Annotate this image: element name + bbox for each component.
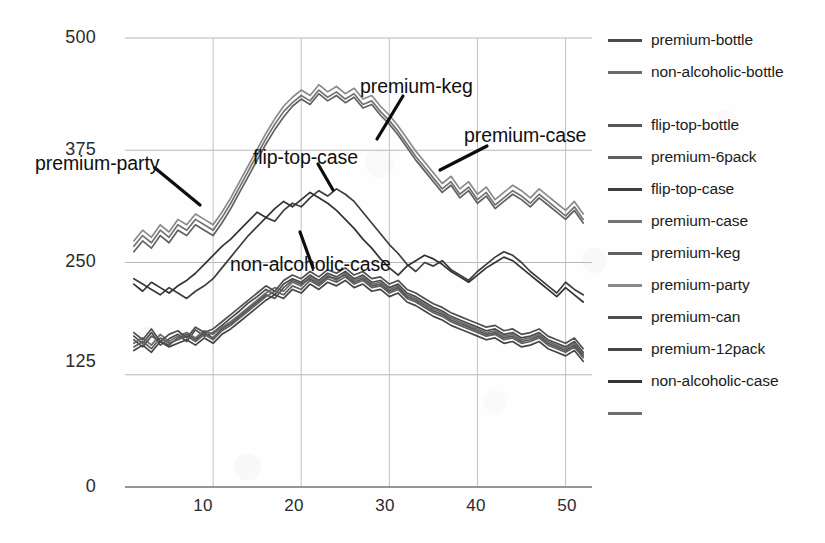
legend-swatch-icon [608, 39, 642, 42]
series-line-premium-case [134, 90, 583, 246]
legend-swatch-icon [608, 124, 642, 127]
legend-label: premium-can [651, 307, 740, 326]
legend-swatch-icon [608, 412, 642, 415]
legend-item-flip-top-case[interactable]: flip-top-case [608, 179, 734, 198]
legend-item-premium-can[interactable]: premium-can [608, 307, 740, 326]
x-axis-tick-50: 50 [547, 496, 587, 516]
legend-swatch-icon [608, 316, 642, 319]
legend-item-premium-6pack[interactable]: premium-6pack [608, 147, 757, 166]
annotation-premium-keg: premium-keg [360, 75, 473, 98]
legend-swatch-icon [608, 71, 642, 74]
x-axis-tick-20: 20 [274, 496, 314, 516]
y-axis-tick-125: 125 [40, 351, 96, 372]
legend-item-premium-12pack[interactable]: premium-12pack [608, 339, 765, 358]
leader-line-premium-case [440, 146, 487, 170]
annotation-premium-party: premium-party [35, 152, 159, 175]
legend-item-non-alcoholic-case[interactable]: non-alcoholic-case [608, 371, 778, 390]
x-axis-tick-40: 40 [456, 496, 496, 516]
legend-item-premium-bottle[interactable]: premium-bottle [608, 30, 753, 49]
x-axis-tick-10: 10 [183, 496, 223, 516]
legend-label: premium-keg [651, 243, 740, 262]
legend-label: premium-bottle [651, 30, 753, 49]
legend-swatch-icon [608, 284, 642, 287]
clipped-caption [4, 531, 424, 542]
y-axis-tick-0: 0 [40, 476, 96, 497]
legend-item-premium-case[interactable]: premium-case [608, 211, 748, 230]
legend-swatch-icon [608, 380, 642, 383]
annotation-premium-case: premium-case [464, 124, 586, 147]
legend-swatch-icon [608, 156, 642, 159]
legend-swatch-icon [608, 188, 642, 191]
leader-line-premium-party [155, 168, 200, 205]
legend-item-premium-party[interactable]: premium-party [608, 275, 750, 294]
legend-label: premium-6pack [651, 147, 757, 166]
annotation-flip-top-case: flip-top-case [253, 146, 358, 169]
legend-label: premium-party [651, 275, 750, 294]
legend-swatch-icon [608, 348, 642, 351]
x-axis-tick-30: 30 [365, 496, 405, 516]
legend-item-flip-top-bottle[interactable]: flip-top-bottle [608, 115, 739, 134]
legend-item-non-alcoholic-bottle[interactable]: non-alcoholic-bottle [608, 62, 783, 81]
legend-item-blank[interactable] [608, 403, 651, 415]
legend-label: premium-12pack [651, 339, 765, 358]
legend-label: flip-top-case [651, 179, 734, 198]
legend-swatch-icon [608, 220, 642, 223]
y-axis-tick-250: 250 [40, 251, 96, 272]
legend-item-premium-keg[interactable]: premium-keg [608, 243, 740, 262]
legend-label: premium-case [651, 211, 748, 230]
series-line-premium-party [134, 85, 583, 241]
annotation-non-alcoholic-case: non-alcoholic-case [230, 253, 391, 276]
y-axis-tick-500: 500 [40, 27, 96, 48]
series-line-premium-6pack [134, 277, 583, 358]
legend-label: non-alcoholic-bottle [651, 62, 783, 81]
legend-label: flip-top-bottle [651, 115, 739, 134]
chart-screenshot: 500 375 250 125 0 10 20 30 40 50 premium… [0, 0, 825, 543]
legend-swatch-icon [608, 252, 642, 255]
series-line-premium-12pack [134, 280, 583, 361]
legend-label: non-alcoholic-case [651, 371, 778, 390]
series-line-premium-keg [134, 94, 583, 252]
